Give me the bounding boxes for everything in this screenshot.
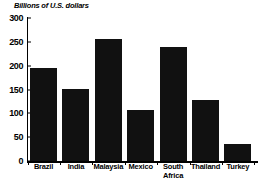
bar — [127, 110, 154, 161]
bar — [160, 47, 187, 161]
bar — [224, 144, 251, 161]
x-axis-tick-mark — [222, 162, 223, 165]
x-axis-tick-mark — [125, 162, 126, 165]
bars-layer — [0, 0, 260, 186]
x-axis-tick-mark — [254, 162, 255, 165]
x-axis-tick-mark — [92, 162, 93, 165]
x-axis-tick-mark — [157, 162, 158, 165]
bar — [30, 68, 57, 161]
bar-chart: Billions of U.S. dollars 050100150200250… — [0, 0, 260, 186]
bar — [62, 89, 89, 161]
x-axis-category-label: Turkey — [217, 163, 259, 172]
bar — [192, 100, 219, 161]
x-axis-tick-mark — [60, 162, 61, 165]
x-axis-tick-mark — [190, 162, 191, 165]
bar — [95, 39, 122, 161]
x-axis-tick-mark — [28, 162, 29, 165]
x-axis-category-labels: BrazilIndiaMalaysiaMexicoSouth AfricaTha… — [0, 163, 260, 186]
